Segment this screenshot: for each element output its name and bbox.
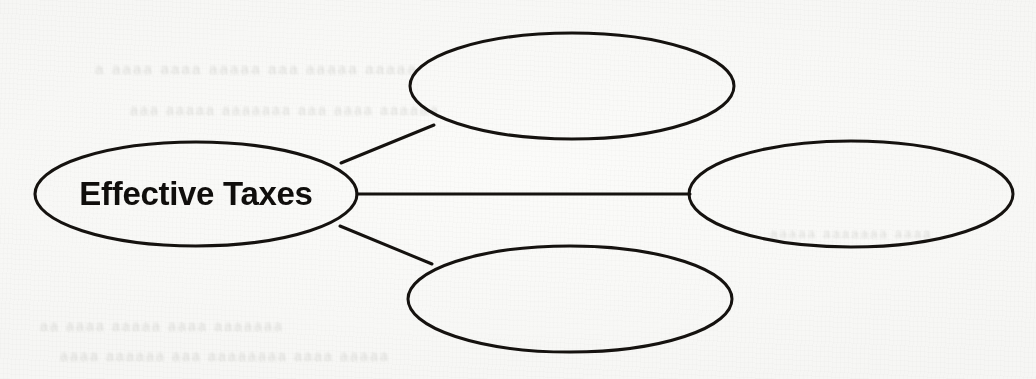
- connector-center-to-bottom: [340, 226, 432, 264]
- connectors-group: [340, 125, 690, 264]
- worksheet-page: a aaaa aaaa aaaaa aaa aaaaa aaaaaaaa aaa…: [0, 0, 1036, 379]
- connector-center-to-top: [341, 125, 434, 163]
- concept-map-diagram: Effective Taxes: [0, 0, 1036, 379]
- blank-branch-right-outline: [689, 141, 1013, 247]
- blank-branch-top[interactable]: [410, 33, 734, 139]
- blank-branch-bottom[interactable]: [408, 246, 732, 352]
- blank-branch-right[interactable]: [689, 141, 1013, 247]
- center-node-effective-taxes: Effective Taxes: [35, 142, 357, 246]
- blank-branch-bottom-outline: [408, 246, 732, 352]
- blank-branch-top-outline: [410, 33, 734, 139]
- center-node-effective-taxes-label: Effective Taxes: [79, 175, 312, 212]
